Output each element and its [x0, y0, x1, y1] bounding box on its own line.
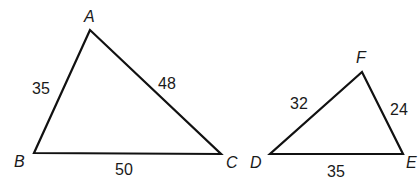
triangle-def: D E F 32 24 35	[250, 49, 417, 180]
similar-triangles-diagram: A B C 35 48 50 D E F 32 24 35	[0, 0, 418, 189]
vertex-label-b: B	[14, 153, 25, 170]
side-label-df: 32	[290, 95, 308, 112]
triangle-abc-outline	[34, 30, 221, 154]
side-label-de: 35	[327, 163, 345, 180]
side-label-ab: 35	[32, 80, 50, 97]
vertex-label-c: C	[226, 154, 238, 171]
triangle-def-outline	[270, 72, 403, 154]
side-label-ac: 48	[158, 75, 176, 92]
vertex-label-d: D	[250, 154, 262, 171]
vertex-label-e: E	[406, 154, 417, 171]
side-label-bc: 50	[115, 161, 133, 178]
side-label-fe: 24	[390, 101, 408, 118]
vertex-label-f: F	[356, 49, 367, 66]
vertex-label-a: A	[83, 8, 95, 25]
triangle-abc: A B C 35 48 50	[14, 8, 238, 178]
